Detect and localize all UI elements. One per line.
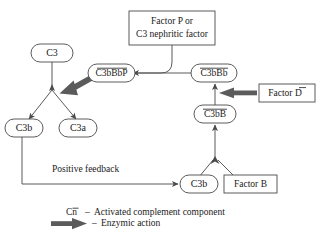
legend-dash-1: – <box>84 207 90 217</box>
node-factor-b: Factor B <box>224 175 277 193</box>
node-c3a: C3a <box>59 119 97 137</box>
node-c3-label: C3 <box>46 47 58 58</box>
node-c3: C3 <box>31 44 73 62</box>
node-c3a-label: C3a <box>70 122 87 133</box>
legend-label-1: Activated complement component <box>94 207 225 217</box>
node-factor-p-label-1: Factor P or <box>151 16 194 26</box>
node-c3bb: C3bB <box>194 105 236 123</box>
complement-pathway-diagram: Factor P or C3 nephritic factor C3 C3bBb… <box>0 0 321 237</box>
node-factor-p-label-2: C3 nephritic factor <box>136 29 209 39</box>
edge-c3b-to-junction <box>199 160 213 177</box>
node-c3b-bottom-label: C3b <box>191 178 208 189</box>
node-c3bbbp-label: C3bBbP <box>95 68 127 78</box>
node-factor-p: Factor P or C3 nephritic factor <box>129 11 215 45</box>
enzyme-arrow-factord <box>219 88 257 99</box>
node-c3b-bottom: C3b <box>180 175 218 193</box>
diagram-canvas: Factor P or C3 nephritic factor C3 C3bBb… <box>0 0 321 237</box>
legend-label-2: Enzymic action <box>101 218 161 228</box>
legend-dash-2: – <box>91 218 97 228</box>
node-c3b-left-label: C3b <box>16 122 33 133</box>
legend: Cn – Activated complement component – En… <box>51 207 225 229</box>
node-factor-d: Factor D <box>259 84 315 102</box>
node-factor-b-label: Factor B <box>234 179 267 189</box>
legend-symbol-cn: Cn <box>66 207 77 217</box>
node-c3bbb: C3bBb <box>191 64 237 82</box>
legend-thick-arrow-icon <box>51 218 87 229</box>
node-factor-d-label: Factor D <box>268 88 302 98</box>
node-c3bbbp: C3bBbP <box>88 64 135 82</box>
node-c3b-left: C3b <box>5 119 43 137</box>
node-c3bb-label: C3bB <box>204 109 226 119</box>
node-c3bbb-label: C3bBb <box>201 68 228 78</box>
edge-positive-feedback <box>22 137 178 184</box>
edge-factorb-to-junction <box>218 160 235 177</box>
edge-factorp-to-c3bbbp <box>135 45 172 73</box>
edge-junction-to-c3b <box>29 90 52 119</box>
annotation-positive-feedback: Positive feedback <box>52 164 120 174</box>
